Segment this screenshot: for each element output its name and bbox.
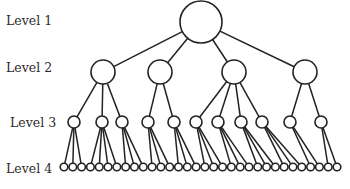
edge-l3-l4 — [265, 127, 283, 163]
level-4-node — [113, 163, 121, 171]
edge-l2-l3 — [107, 83, 120, 116]
level-3-node — [315, 116, 327, 128]
level-4-node — [148, 163, 156, 171]
level-3-node — [142, 116, 154, 128]
edge-l3-l4 — [125, 127, 142, 163]
level-3-node — [68, 116, 80, 128]
level-4-node — [60, 163, 68, 171]
edge-l2-l3 — [200, 82, 227, 118]
edge-l1-l2 — [114, 32, 183, 67]
edge-l2-l3 — [149, 84, 157, 116]
level-4-node — [166, 163, 174, 171]
edge-l2-l3 — [163, 84, 172, 117]
hierarchy-tree-diagram — [0, 0, 350, 189]
level-4-node — [245, 163, 253, 171]
level-4-node — [298, 163, 306, 171]
edge-l3-l4 — [73, 128, 74, 163]
level-4-node — [104, 163, 112, 171]
level-3-node — [190, 116, 202, 128]
level-4-node — [139, 163, 147, 171]
level-4-node — [78, 163, 86, 171]
level-4-node — [280, 163, 288, 171]
edge-l2-l3 — [292, 83, 302, 116]
level-4-node — [272, 163, 280, 171]
level-4-node — [95, 163, 103, 171]
level-2-node — [222, 60, 246, 84]
level-4-node — [131, 163, 139, 171]
level-4-node — [316, 163, 324, 171]
edge-l2-l3 — [102, 84, 103, 116]
tree-edges — [65, 31, 336, 164]
level-4-node — [69, 163, 77, 171]
level-2-node — [91, 60, 115, 84]
level-4-node — [219, 163, 227, 171]
edge-l3-l4 — [151, 127, 168, 163]
level-3-node — [256, 116, 268, 128]
level-3-node — [168, 116, 180, 128]
level-2-node — [148, 60, 172, 84]
level-4-node — [236, 163, 244, 171]
level-1-node — [180, 1, 222, 43]
level-3-node — [212, 116, 224, 128]
level-4-node — [254, 163, 262, 171]
edge-l1-l2 — [213, 40, 228, 62]
level-4-node — [192, 163, 200, 171]
level-4-node — [183, 163, 191, 171]
edge-l3-l4 — [65, 128, 73, 163]
level-3-node — [116, 116, 128, 128]
level-4-node — [307, 163, 315, 171]
level-3-node — [235, 116, 247, 128]
level-2-node — [293, 60, 317, 84]
level-3-node — [284, 116, 296, 128]
edge-l2-l3 — [236, 84, 241, 116]
edge-l3-l4 — [292, 127, 309, 163]
level-4-node — [210, 163, 218, 171]
level-3-node — [96, 116, 108, 128]
edge-l1-l2 — [168, 38, 188, 62]
level-4-node — [201, 163, 209, 171]
edge-l2-l3 — [309, 83, 320, 116]
edge-l3-l4 — [293, 127, 317, 164]
level-4-node — [122, 163, 130, 171]
edge-l3-l4 — [75, 128, 81, 163]
level-4-node — [228, 163, 236, 171]
level-4-node — [324, 163, 332, 171]
edge-l3-l4 — [221, 127, 239, 163]
edge-l3-l4 — [177, 127, 195, 163]
edge-l2-l3 — [240, 82, 259, 116]
level-4-node — [175, 163, 183, 171]
level-4-node — [289, 163, 297, 171]
level-4-node — [87, 163, 95, 171]
level-4-node — [263, 163, 271, 171]
level-4-node — [333, 163, 341, 171]
level-4-node — [157, 163, 165, 171]
edge-l2-l3 — [77, 82, 97, 116]
